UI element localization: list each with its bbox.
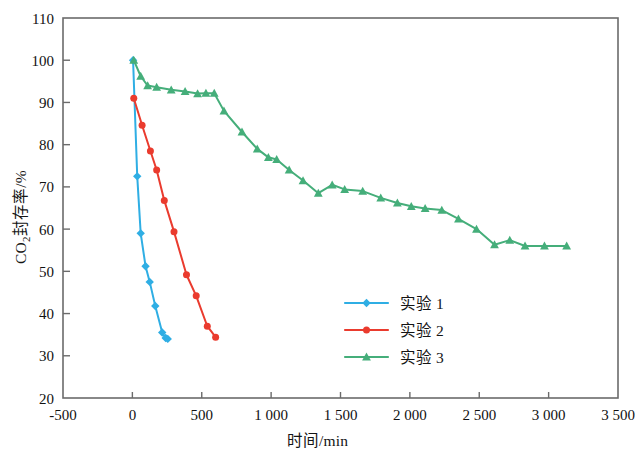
- data-point-marker: [328, 180, 337, 188]
- x-tick-label: 3 500: [601, 407, 635, 423]
- data-point-marker: [141, 262, 149, 270]
- y-tick-label: 30: [39, 348, 54, 364]
- data-point-marker: [454, 215, 463, 223]
- data-point-marker: [137, 229, 145, 237]
- x-axis-title-text: 时间/min: [287, 432, 349, 449]
- data-point-marker: [133, 172, 141, 180]
- y-tick-label: 60: [39, 222, 54, 238]
- co2-sequestration-line-chart: -50005001 0001 5002 0002 5003 0003 500 2…: [0, 0, 635, 453]
- legend-marker-icon: [363, 327, 370, 334]
- x-axis-title: 时间/min: [0, 428, 635, 450]
- x-tick-label: 1 000: [254, 407, 288, 423]
- data-point-marker: [146, 278, 154, 286]
- series-line: [134, 60, 567, 246]
- legend-label: 实验 1: [400, 295, 444, 312]
- data-point-marker: [130, 95, 137, 102]
- legend-item: 实验 3: [345, 349, 444, 366]
- y-tick-label: 40: [39, 306, 54, 322]
- data-point-marker: [472, 225, 481, 233]
- series-triangle: [129, 56, 571, 250]
- y-tick-label: 100: [32, 53, 55, 69]
- data-point-marker: [183, 271, 190, 278]
- legend-marker-icon: [362, 299, 370, 307]
- x-tick-label: -500: [49, 407, 77, 423]
- data-point-marker: [136, 72, 145, 80]
- x-tick-label: 2 000: [393, 407, 427, 423]
- x-tick-label: 0: [129, 407, 137, 423]
- data-point-marker: [220, 106, 229, 114]
- data-point-marker: [505, 236, 514, 244]
- y-axis-ticks: 2030405060708090100110: [32, 11, 71, 407]
- data-point-marker: [212, 334, 219, 341]
- data-point-marker: [204, 323, 211, 330]
- data-point-marker: [153, 167, 160, 174]
- plot-frame: [63, 18, 618, 398]
- legend-label: 实验 2: [400, 322, 444, 339]
- legend-item: 实验 2: [345, 322, 444, 339]
- chart-legend: 实验 1实验 2实验 3: [345, 295, 444, 366]
- y-tick-label: 50: [39, 264, 54, 280]
- y-axis-title-prefix: CO: [12, 242, 29, 264]
- y-tick-label: 70: [39, 179, 54, 195]
- y-axis-title-subscript: 2: [20, 236, 32, 242]
- x-tick-label: 500: [191, 407, 214, 423]
- x-tick-label: 2 500: [462, 407, 496, 423]
- y-axis-title-suffix: 封存率/%: [12, 170, 29, 236]
- data-point-marker: [193, 292, 200, 299]
- figure-container: -50005001 0001 5002 0002 5003 0003 500 2…: [0, 0, 635, 453]
- series-circle: [130, 95, 219, 341]
- y-tick-label: 90: [39, 95, 54, 111]
- series-line: [134, 98, 216, 337]
- legend-item: 实验 1: [345, 295, 444, 312]
- y-tick-label: 20: [39, 391, 54, 407]
- y-tick-label: 80: [39, 137, 54, 153]
- y-tick-label: 110: [32, 11, 54, 27]
- data-point-marker: [171, 228, 178, 235]
- data-point-marker: [139, 122, 146, 129]
- y-axis-title: CO2封存率/%: [8, 137, 32, 297]
- data-point-marker: [161, 197, 168, 204]
- x-tick-label: 3 000: [532, 407, 566, 423]
- x-tick-label: 1 500: [324, 407, 358, 423]
- data-series-group: [129, 56, 571, 343]
- data-point-marker: [151, 302, 159, 310]
- x-axis-ticks: -50005001 0001 5002 0002 5003 0003 500: [49, 392, 635, 423]
- plot-area-border: [63, 18, 618, 398]
- legend-label: 实验 3: [400, 349, 444, 366]
- data-point-marker: [147, 148, 154, 155]
